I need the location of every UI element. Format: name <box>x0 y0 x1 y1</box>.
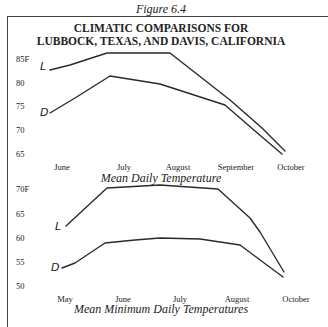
line-lubbock-mean-minimum <box>66 185 284 272</box>
line-davis-mean-minimum <box>62 238 283 277</box>
line-lubbock-mean-daily <box>50 53 285 151</box>
